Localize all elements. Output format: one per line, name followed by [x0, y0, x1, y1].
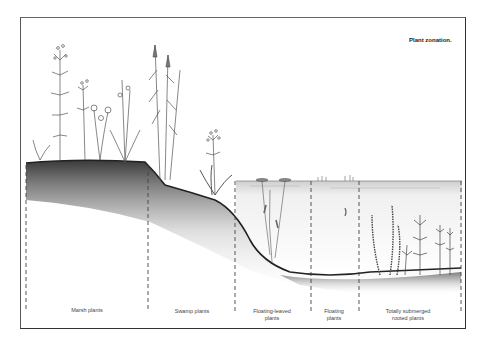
zone-label-floating: Floating plants [324, 308, 344, 321]
swamp-plants-drawing [149, 45, 232, 195]
zone-label-line2: plants [324, 315, 344, 322]
zone-label-line1: Floating [324, 308, 344, 315]
zone-label-line1: Totally submerged [386, 308, 431, 315]
plant-zonation-illustration [0, 0, 482, 347]
marsh-plants-drawing [33, 45, 140, 162]
zone-label-swamp: Swamp plants [175, 308, 210, 315]
zone-label-line1: Marsh plants [71, 307, 103, 314]
zone-label-submerged: Totally submerged rooted plants [386, 308, 431, 321]
zone-label-line2: plants [253, 315, 291, 322]
figure-title: Plant zonation. [409, 37, 452, 43]
zone-label-line1: Swamp plants [175, 308, 210, 315]
zone-label-line1: Floating-leaved [253, 308, 291, 315]
zone-label-line2: rooted plants [386, 315, 431, 322]
zone-label-floating-leaved: Floating-leaved plants [253, 308, 291, 321]
zone-label-marsh: Marsh plants [71, 307, 103, 314]
